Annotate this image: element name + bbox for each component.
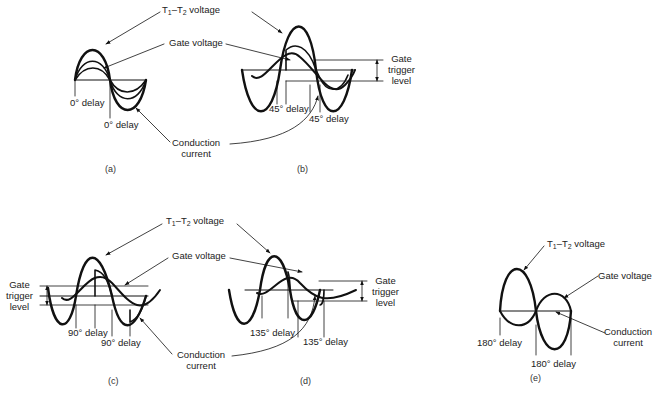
panel-d-waveforms: [229, 256, 367, 337]
label-t1t2-voltage-top: T1–T2 voltage: [162, 5, 220, 17]
panel-e-delay-1: 180° delay: [477, 338, 522, 349]
panel-d-gate-trigger-level: Gate trigger level: [372, 276, 399, 309]
label-t1t2-voltage-bottom: T1–T2 voltage: [166, 216, 224, 228]
label-conduction-current-top: Conduction current: [172, 138, 220, 160]
panel-b-delay-2: 45° delay: [309, 114, 349, 125]
panel-c-caption: (c): [108, 376, 119, 386]
panel-d-caption: (d): [300, 376, 311, 386]
panel-a-delay-1: 0° delay: [70, 98, 104, 109]
label-gate-voltage-top: Gate voltage: [169, 38, 223, 49]
panel-d-delay-1: 135° delay: [250, 328, 295, 339]
panel-a-caption: (a): [105, 164, 116, 174]
panel-a-delay-2: 0° delay: [104, 120, 138, 131]
panel-b-gate-trigger-level: Gate trigger level: [388, 54, 415, 87]
leader-lines: [104, 12, 605, 356]
panel-c-delay-2: 90° delay: [101, 338, 141, 349]
label-gate-voltage-bottom: Gate voltage: [172, 251, 226, 262]
panel-c-gate-trigger-level: Gate trigger level: [6, 280, 33, 313]
panel-e-conduction-current: Conduction current: [604, 327, 652, 349]
panel-e-t1t2-voltage: T1–T2 voltage: [547, 239, 605, 251]
panel-b-caption: (b): [297, 164, 308, 174]
panel-b-delay-1: 45° delay: [269, 104, 309, 115]
panel-e-caption: (e): [530, 373, 541, 383]
panel-e-delay-2: 180° delay: [531, 359, 576, 370]
panel-c-waveforms: [40, 258, 160, 336]
label-conduction-current-bottom: Conduction current: [177, 350, 225, 372]
panel-e-gate-voltage: Gate voltage: [598, 271, 652, 282]
panel-b-waveforms: [242, 27, 383, 113]
panel-d-delay-2: 135° delay: [303, 337, 348, 348]
